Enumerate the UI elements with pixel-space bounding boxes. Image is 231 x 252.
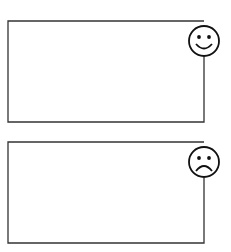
- panel-box-top: [8, 21, 204, 122]
- panel-box-bottom: [8, 142, 204, 243]
- smiley-face-icon: [189, 26, 219, 56]
- panel-happy: [8, 21, 219, 122]
- frowny-face-icon: [189, 147, 219, 177]
- panel-sad: [8, 142, 219, 243]
- diagram-canvas: [0, 0, 231, 252]
